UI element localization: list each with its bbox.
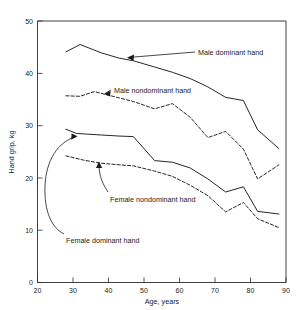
y-axis-title: Hand grip, kg: [7, 131, 16, 174]
arrowhead-female-dominant: [71, 134, 77, 140]
x-tick-label-70: 70: [211, 287, 219, 294]
x-tick-label-30: 30: [69, 287, 77, 294]
y-tick-label-30: 30: [25, 122, 33, 129]
label-male-nondominant-hand: Male nondominant hand: [114, 86, 191, 95]
x-axis-ticks: [38, 278, 287, 283]
x-tick-label-60: 60: [176, 287, 184, 294]
x-tick-label-80: 80: [247, 287, 255, 294]
series-male-dominant-hand: [66, 45, 279, 149]
x-tick-label-20: 20: [34, 287, 42, 294]
line-chart: 0 10 20 30 40 50 20 30 40 50 60 70 80 90…: [0, 0, 305, 310]
y-tick-label-10: 10: [25, 227, 33, 234]
annotation-leaders: [45, 52, 195, 234]
hand-grip-figure: 0 10 20 30 40 50 20 30 40 50 60 70 80 90…: [0, 0, 305, 310]
x-axis-title: Age, years: [145, 297, 180, 306]
label-female-nondominant-hand: Female nondominant hand: [110, 195, 196, 204]
x-tick-label-40: 40: [105, 287, 113, 294]
leader-female-dominant: [45, 137, 76, 235]
y-tick-label-20: 20: [25, 175, 33, 182]
x-tick-label-90: 90: [282, 287, 290, 294]
y-tick-label-40: 40: [25, 70, 33, 77]
y-tick-label-0: 0: [29, 279, 33, 286]
y-axis-ticks: [38, 21, 43, 283]
label-male-dominant-hand: Male dominant hand: [198, 48, 263, 57]
leader-male-dominant: [128, 52, 195, 58]
arrowhead-male-nondominant: [104, 91, 111, 97]
y-tick-label-50: 50: [25, 18, 33, 25]
x-tick-label-50: 50: [140, 287, 148, 294]
label-female-dominant-hand: Female dominant hand: [66, 236, 140, 245]
